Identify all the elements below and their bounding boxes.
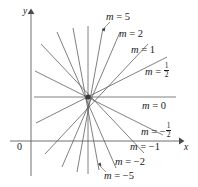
slope-label-m2-value: 2 [138, 28, 143, 39]
slope-line-m-neg2 [57, 32, 116, 168]
slope-label-m-neg5: m = −5 [104, 171, 134, 182]
slope-label-m-neg2-variable: m [115, 156, 123, 167]
slope-label-m2-variable: m [119, 28, 127, 39]
slope-label-m0-variable: m [142, 100, 150, 111]
slope-label-m-neg2-value: 2 [140, 156, 145, 167]
slope-label-m-neghalf: m = −12 [141, 122, 171, 138]
slope-label-m-half-variable: m [145, 66, 153, 77]
slope-label-m-neg5-variable: m [104, 170, 112, 181]
slope-label-m-neg1: m = −1 [130, 142, 160, 153]
slope-label-m1-value: 1 [150, 44, 155, 55]
slope-label-m2: m = 2 [119, 29, 143, 40]
leader-m5 [102, 22, 110, 30]
slope-label-m1: m = 1 [131, 45, 155, 56]
y-axis-arrowhead [28, 9, 35, 14]
slope-label-m-neghalf-denominator: 2 [166, 131, 171, 139]
slope-label-m1-variable: m [131, 44, 139, 55]
slope-label-m-neg5-value: 5 [129, 170, 134, 181]
slope-label-m-half-fraction: 12 [164, 62, 169, 78]
x-axis-label: x [184, 143, 188, 153]
slope-label-m-half: m = 12 [145, 62, 169, 78]
slope-label-m0: m = 0 [142, 101, 166, 112]
slope-label-m5-value: 5 [125, 11, 130, 22]
slope-label-m-neghalf-fraction: 12 [166, 122, 171, 138]
figure-canvas [0, 0, 198, 187]
slope-label-m5: m = 5 [106, 12, 130, 23]
slope-label-m-neg2: m = −2 [115, 157, 145, 168]
common-point-marker [85, 94, 90, 99]
slope-label-m-neg1-value: 1 [155, 141, 160, 152]
line-pencil-figure: y x 0 m = 5 m = 2 m = 1 m = 12 m = 0 m =… [0, 0, 198, 187]
y-axis-label: y [23, 7, 27, 17]
slope-label-m5-variable: m [106, 11, 114, 22]
slope-label-m0-value: 0 [161, 100, 166, 111]
slope-label-m-neg1-variable: m [130, 141, 138, 152]
slope-line-m2 [62, 32, 120, 167]
slope-line-m1 [45, 44, 148, 154]
origin-label: 0 [17, 142, 22, 152]
slope-label-m-half-denominator: 2 [164, 71, 169, 79]
slope-label-m-neghalf-variable: m [141, 126, 149, 137]
